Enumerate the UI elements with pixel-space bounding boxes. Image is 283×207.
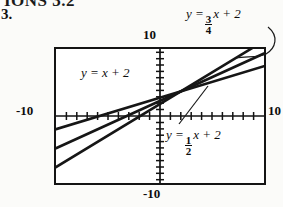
axis-label-top: 10 xyxy=(143,27,156,43)
axis-label-left: -10 xyxy=(16,103,33,119)
fraction-denominator: 2 xyxy=(185,145,193,156)
fraction-denominator: 4 xyxy=(205,24,213,35)
equation-lhs: y = xyxy=(166,127,184,142)
equation-label-y-equals-three-quarters-x-plus-2: y =34x + 2 xyxy=(186,6,241,35)
equation-rhs: x + 2 xyxy=(213,6,241,21)
fraction-numerator: 3 xyxy=(205,14,213,24)
equation-label-y-equals-x-plus-2: y = x + 2 xyxy=(81,65,130,81)
figure-page: IONS 3.2 3. xyxy=(0,0,283,207)
axis-label-bottom: -10 xyxy=(143,186,160,202)
fraction-three-quarters: 34 xyxy=(205,14,213,35)
axis-label-right: 10 xyxy=(268,103,281,119)
equation-lhs: y = xyxy=(186,6,204,21)
equation-rhs: x + 2 xyxy=(193,127,221,142)
fraction-one-half: 12 xyxy=(185,135,193,156)
equation-lhs: y = xyxy=(81,65,99,80)
equation-rhs: x + 2 xyxy=(102,65,130,80)
equation-label-y-equals-half-x-plus-2: y =12x + 2 xyxy=(166,127,221,156)
fraction-numerator: 1 xyxy=(185,135,193,145)
axes-group xyxy=(56,41,264,183)
